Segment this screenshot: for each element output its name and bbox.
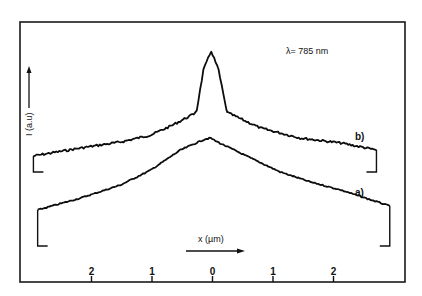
x-tick-label: 1	[149, 266, 155, 277]
x-axis-label-group: x (µm)	[186, 234, 245, 254]
baseline-bracket-left	[33, 156, 43, 172]
curves: b)a)	[33, 52, 389, 246]
baseline-bracket-right	[380, 206, 390, 246]
curve-a	[38, 138, 390, 210]
arrow-right-icon	[237, 249, 245, 254]
chart: 21012 b)a) λ= 785 nm I (a.u) x (µm)	[0, 0, 422, 296]
x-tick-label: 0	[210, 266, 216, 277]
y-axis-label: I (a.u)	[24, 112, 34, 136]
baseline-bracket-left	[38, 210, 48, 246]
wavelength-annotation: λ= 785 nm	[286, 46, 328, 56]
x-tick-label: 2	[331, 266, 337, 277]
y-axis-label-group: I (a.u)	[24, 66, 34, 136]
x-tick-label: 1	[270, 266, 276, 277]
curve-label-a: a)	[355, 187, 364, 198]
curve-label-b: b)	[355, 131, 364, 142]
x-axis-label: x (µm)	[198, 234, 224, 244]
x-tick-label: 2	[89, 266, 95, 277]
baseline-bracket-right	[366, 150, 376, 172]
x-axis-ticks: 21012	[89, 266, 337, 282]
arrow-up-icon	[27, 66, 32, 73]
